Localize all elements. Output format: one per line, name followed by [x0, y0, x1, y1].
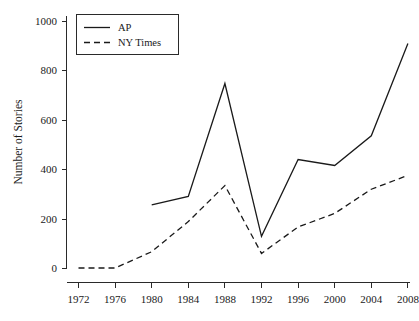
series-line-ap [152, 43, 408, 236]
y-tick-label: 400 [41, 163, 58, 175]
x-tick-label: 1984 [177, 293, 200, 305]
x-axis-ticks: 1972 1976 1980 1984 1988 1992 1996 2000 [68, 283, 419, 306]
x-tick-2000: 2000 [324, 283, 347, 306]
x-tick-1980: 1980 [141, 283, 164, 306]
legend-box [77, 15, 179, 55]
x-tick-label: 1996 [287, 293, 310, 305]
x-tick-1988: 1988 [214, 283, 237, 306]
x-tick-1992: 1992 [251, 283, 273, 306]
x-tick-label: 2008 [397, 293, 419, 305]
x-tick-label: 1988 [214, 293, 237, 305]
x-tick-label: 1976 [104, 293, 127, 305]
x-tick-1972: 1972 [68, 283, 90, 306]
y-tick-0: 0 [52, 262, 67, 274]
x-tick-2008: 2008 [397, 283, 419, 306]
series-group [79, 43, 408, 268]
x-tick-1984: 1984 [177, 283, 200, 306]
y-axis-ticks: 0 200 400 600 800 1000 [35, 15, 67, 274]
legend: AP NY Times [77, 15, 179, 55]
x-tick-1976: 1976 [104, 283, 127, 306]
y-tick-1000: 1000 [35, 15, 67, 27]
line-chart-figure: 0 200 400 600 800 1000 1972 1 [0, 0, 419, 321]
legend-label: NY Times [118, 37, 161, 48]
y-tick-200: 200 [41, 213, 67, 225]
x-tick-2004: 2004 [360, 283, 383, 306]
series-line-ny-times [79, 175, 408, 268]
legend-label: AP [118, 22, 132, 33]
x-tick-1996: 1996 [287, 283, 310, 306]
y-tick-400: 400 [41, 163, 67, 175]
x-tick-label: 2004 [360, 293, 383, 305]
y-tick-label: 800 [41, 64, 58, 76]
y-tick-label: 0 [52, 262, 58, 274]
x-tick-label: 1992 [251, 293, 273, 305]
x-tick-label: 2000 [324, 293, 347, 305]
y-tick-label: 200 [41, 213, 58, 225]
y-axis-title: Number of Stories [12, 99, 24, 184]
axes-group [67, 16, 411, 283]
x-tick-label: 1972 [68, 293, 90, 305]
y-tick-800: 800 [41, 64, 67, 76]
y-tick-600: 600 [41, 114, 67, 126]
y-tick-label: 600 [41, 114, 58, 126]
x-tick-label: 1980 [141, 293, 164, 305]
y-tick-label: 1000 [35, 15, 58, 27]
